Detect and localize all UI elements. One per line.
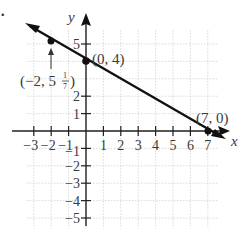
point-label-neg2: (−2, 5 1 7 ) xyxy=(20,71,75,91)
y-tick-label: −4 xyxy=(65,194,80,209)
x-tick-label: 4 xyxy=(152,138,159,153)
problem-bullet: . xyxy=(0,0,6,21)
y-tick-label: −5 xyxy=(65,211,80,226)
x-tick-label: −3 xyxy=(23,138,38,153)
y-tick-label: −2 xyxy=(65,159,80,174)
x-tick-label: 3 xyxy=(135,138,142,153)
x-tick-label: 2 xyxy=(117,138,124,153)
point-label-neg2-frac-den: 7 xyxy=(63,82,67,91)
point-label-neg2-close: ) xyxy=(70,73,75,90)
y-axis-label: y xyxy=(66,9,75,25)
y-axis xyxy=(81,13,91,226)
x-tick-label: −2 xyxy=(41,138,56,153)
point-label-neg2-main: (−2, 5 xyxy=(20,73,56,90)
y-tick-label: −1 xyxy=(65,144,80,159)
annotation-arrow-icon xyxy=(48,48,54,55)
point-label-0-4: (0, 4) xyxy=(92,51,125,68)
coordinate-plane: −3−2−11234567−5−4−3−2−1125 x y . (0, 4) … xyxy=(0,0,246,249)
point-0-4 xyxy=(82,57,90,65)
y-tick-label: −3 xyxy=(65,176,80,191)
y-tick-label: 2 xyxy=(73,89,80,104)
point-neg2-5-1-7 xyxy=(48,38,55,45)
y-tick-label: 5 xyxy=(73,37,80,52)
x-tick-label: 1 xyxy=(100,138,107,153)
x-tick-label: 5 xyxy=(170,138,177,153)
point-7-0 xyxy=(205,128,212,135)
y-tick-label: 1 xyxy=(73,107,80,122)
point-label-7-0: (7, 0) xyxy=(196,110,229,127)
point-label-neg2-frac-num: 1 xyxy=(63,71,67,80)
x-axis-label: x xyxy=(230,133,238,149)
x-tick-label: 6 xyxy=(187,138,194,153)
x-tick-label: 7 xyxy=(204,138,211,153)
